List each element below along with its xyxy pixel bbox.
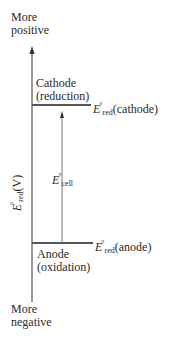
axis-arrowhead-icon bbox=[30, 46, 35, 54]
cathode-potential-label: E°red(cathode) bbox=[93, 99, 158, 119]
more-negative-line2: negative bbox=[11, 316, 52, 329]
more-positive-label: More positive bbox=[11, 11, 49, 37]
ecell-label: E°cell bbox=[52, 170, 73, 190]
axis-title-degree: ° bbox=[9, 202, 18, 205]
ecell-arrowhead-icon bbox=[60, 111, 64, 118]
ecell-sub: cell bbox=[62, 179, 74, 188]
anode-potential-label: E°red(anode) bbox=[95, 237, 151, 257]
anode-potential-sub: red bbox=[105, 246, 115, 255]
cathode-label: Cathode (reduction) bbox=[36, 77, 89, 103]
more-positive-line2: positive bbox=[11, 24, 49, 37]
anode-potential-paren: (anode) bbox=[115, 240, 152, 254]
cathode-label-line2: (reduction) bbox=[36, 90, 89, 103]
axis-title-sub: red bbox=[16, 191, 25, 201]
more-negative-label: More negative bbox=[11, 303, 52, 329]
axis-title-unit: (V) bbox=[10, 175, 24, 192]
cathode-potential-paren: (cathode) bbox=[113, 102, 158, 116]
cathode-potential-sub: red bbox=[103, 108, 113, 117]
anode-label: Anode (oxidation) bbox=[37, 248, 90, 274]
anode-label-line2: (oxidation) bbox=[37, 261, 90, 274]
axis-title: E°red(V) bbox=[7, 168, 27, 218]
